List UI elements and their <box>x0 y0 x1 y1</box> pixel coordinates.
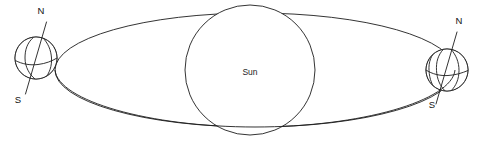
earth-left-north-label: N <box>38 5 45 16</box>
earth-left-group: N S <box>15 5 57 105</box>
sun-group: Sun <box>185 5 315 135</box>
earth-orbit-diagram: Sun N S <box>0 0 487 146</box>
diagram-canvas: Sun N S <box>0 0 487 146</box>
earth-right-north-label: N <box>456 15 463 26</box>
earth-right-south-label: S <box>429 99 435 110</box>
earth-left-south-label: S <box>15 94 21 105</box>
sun-label: Sun <box>242 67 257 77</box>
earth-right-group: N S <box>426 15 468 110</box>
